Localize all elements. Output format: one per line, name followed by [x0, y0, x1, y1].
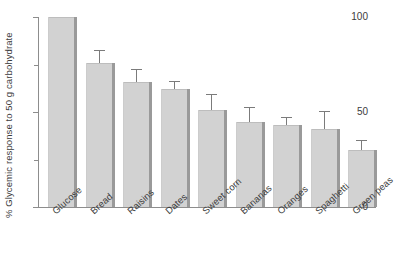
error-bar-cap: [206, 94, 217, 95]
bar: [48, 17, 77, 207]
plot-area: 050100: [38, 17, 376, 207]
y-tick-label: 50: [338, 107, 368, 117]
bar: [161, 89, 190, 207]
error-bar-stem: [361, 141, 362, 151]
error-bar-cap: [94, 50, 105, 51]
bar-top-edge: [49, 17, 77, 18]
y-tick-major: [33, 112, 39, 113]
bar-top-edge: [162, 89, 190, 90]
bar-top-edge: [237, 122, 265, 123]
bar: [86, 63, 115, 207]
bar-group: [48, 17, 77, 207]
error-bar-cap: [319, 111, 330, 112]
bars-container: [38, 17, 376, 208]
bar-shadow: [112, 63, 115, 207]
bar-group: [123, 17, 152, 207]
error-bar-stem: [174, 82, 175, 90]
bar-top-edge: [274, 125, 302, 126]
bar-group: [161, 17, 190, 207]
bar-top-edge: [87, 63, 115, 64]
error-bar-cap: [281, 117, 292, 118]
y-tick-minor: [34, 160, 39, 161]
error-bar-stem: [249, 108, 250, 121]
bar-top-edge: [124, 82, 152, 83]
y-tick-minor: [34, 65, 39, 66]
error-bar-cap: [169, 81, 180, 82]
bar-shadow: [74, 17, 77, 207]
bar-top-edge: [312, 129, 340, 130]
y-tick-major: [33, 17, 39, 18]
bar-top-edge: [349, 150, 377, 151]
x-axis-category-labels: GlucoseBreadRaisinsDatesSweet cornBanana…: [38, 208, 383, 265]
bar-group: [198, 17, 227, 207]
error-bar-stem: [211, 95, 212, 110]
bar-shadow: [187, 89, 190, 207]
y-axis-title: % Glycemic response to 50 g carbohydrate: [3, 8, 17, 218]
error-bar-stem: [286, 118, 287, 126]
error-bar-cap: [131, 69, 142, 70]
bar-group: [236, 17, 265, 207]
error-bar-cap: [244, 107, 255, 108]
error-bar-stem: [324, 112, 325, 129]
bar-group: [311, 17, 340, 207]
bar-top-edge: [199, 110, 227, 111]
y-tick-label: 100: [338, 12, 368, 22]
error-bar-stem: [136, 70, 137, 81]
bar-group: [86, 17, 115, 207]
error-bar-stem: [99, 51, 100, 62]
error-bar-cap: [356, 140, 367, 141]
bar-group: [273, 17, 302, 207]
